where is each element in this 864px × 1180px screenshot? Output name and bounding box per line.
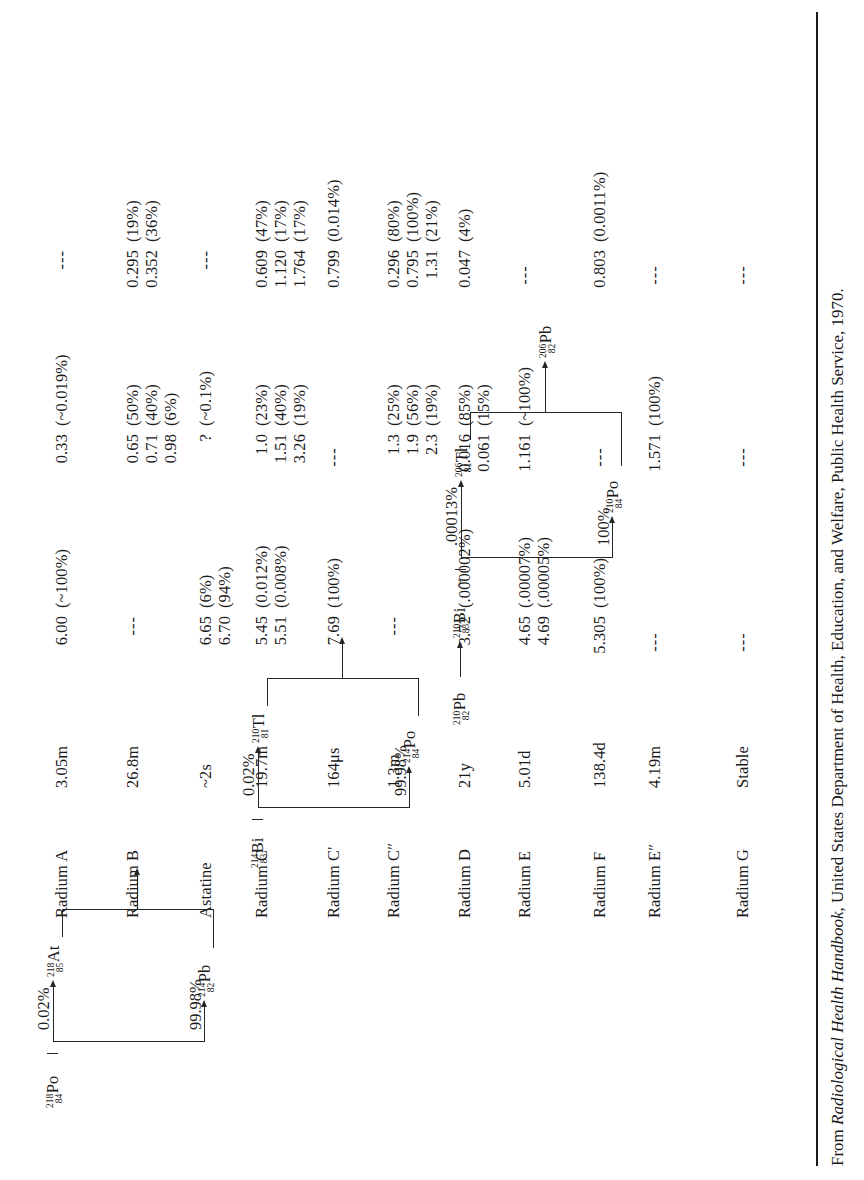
nuclide-indices: 206 81 — [454, 463, 472, 477]
element-symbol: Bi — [250, 838, 267, 854]
merge-line-lower — [213, 909, 214, 948]
atomic-number: 82 — [548, 344, 557, 358]
nuclide-indices: 210 82 — [452, 711, 470, 725]
element-symbol: Bi — [452, 608, 469, 624]
nuclide-po218: 218 84 Po — [45, 1076, 63, 1108]
branch-vertical-line — [258, 807, 410, 808]
branch-fraction-upper: .00013% — [444, 487, 461, 546]
nuclide-indices: 210 83 — [452, 624, 470, 638]
nuclide-pb214: 214 82 Pb — [197, 965, 215, 997]
caption-suffix: , United States Department of Health, Ed… — [828, 288, 847, 911]
nuclide-indices: 214 82 — [197, 983, 215, 997]
branch-fraction-lower: 100% — [596, 508, 613, 547]
element-symbol: Po — [45, 1076, 62, 1093]
atomic-number: 82 — [462, 711, 471, 725]
caption-source-title: Radiological Health Handbook — [828, 911, 847, 1124]
nuclide-pb210: 210 82 Pb — [452, 693, 470, 725]
outflow-arrow-head-icon — [542, 361, 548, 368]
atomic-number: 84 — [615, 499, 624, 513]
outflow-line — [137, 874, 138, 910]
element-symbol: Pb — [452, 693, 469, 710]
branch-arrow-line-upper — [461, 486, 462, 558]
branch-arrow-line-upper — [258, 752, 259, 808]
branch-arrow-line-lower — [204, 1006, 205, 1042]
approx-symbol: ~ — [451, 579, 468, 588]
nuclide-bi210: 210 83 Bi — [452, 608, 470, 638]
element-symbol: Tl — [454, 448, 471, 463]
outflow-arrow-head-icon — [134, 868, 140, 875]
nuclide-po210: 210 84 Po — [605, 481, 623, 513]
branch-arrow-line-lower — [409, 772, 410, 808]
element-symbol: Po — [605, 481, 622, 498]
atomic-number: 82 — [207, 983, 216, 997]
branch-fraction-upper: 0.02% — [36, 987, 53, 1030]
branch-fraction-upper: 0.02% — [241, 753, 258, 796]
branch-tick — [47, 1053, 58, 1054]
atomic-number: 84 — [55, 1094, 64, 1108]
nuclide-indices: 214 83 — [250, 854, 268, 868]
merge-line-upper — [62, 909, 63, 937]
merge-line-lower — [621, 412, 622, 466]
element-symbol: Po — [402, 731, 419, 748]
atomic-number: 85 — [56, 963, 65, 977]
atomic-number: 81 — [464, 463, 473, 477]
element-symbol: At — [46, 946, 63, 963]
merge-line-upper — [470, 412, 471, 440]
scanned-page: Radium A 3.05m 6.00 (~100%) 0.33 (~0.019… — [0, 0, 864, 1180]
element-symbol: Pb — [538, 326, 555, 343]
branch-vertical-line — [53, 1041, 205, 1042]
merge-line-lower — [418, 678, 419, 716]
arrow-head-lower-icon — [609, 516, 615, 523]
branch-vertical-line — [461, 557, 613, 558]
arrow-head-lower-icon — [201, 1000, 207, 1007]
atomic-number: 84 — [412, 749, 421, 763]
arrow-head-upper-icon — [458, 480, 464, 487]
arrow-head-lower-icon — [406, 766, 412, 773]
branch-tick — [252, 819, 263, 820]
nuclide-indices: 214 84 — [402, 749, 420, 763]
outflow-line — [545, 367, 546, 413]
atomic-number: 81 — [261, 729, 270, 743]
nuclide-indices: 218 84 — [45, 1094, 63, 1108]
rotated-page-wrapper: Radium A 3.05m 6.00 (~100%) 0.33 (~0.019… — [0, 0, 864, 1180]
nuclide-at218: 218 85 At — [46, 946, 64, 977]
nuclide-pb206: 206 82 Pb — [538, 326, 556, 358]
decay-arrow-line — [460, 647, 461, 677]
footer-divider — [816, 12, 818, 1166]
branch-tick — [455, 569, 466, 570]
nuclide-indices: 218 85 — [46, 963, 64, 977]
branch-arrow-line-upper — [53, 986, 54, 1042]
nuclide-tl210: 210 81 Tl — [251, 714, 269, 743]
outflow-line — [342, 643, 343, 679]
decay-arrow-head-icon — [457, 641, 463, 648]
atomic-number: 83 — [462, 624, 471, 638]
outflow-arrow-head-icon — [339, 637, 345, 644]
arrow-head-upper-icon — [255, 746, 261, 753]
nuclide-indices: 210 81 — [251, 729, 269, 743]
element-symbol: Pb — [197, 965, 214, 982]
nuclide-indices: 206 82 — [538, 344, 556, 358]
nuclide-tl206: 206 81 Tl — [454, 448, 472, 477]
nuclide-po214: 214 84 Po — [402, 731, 420, 763]
atomic-number: 83 — [260, 854, 269, 868]
nuclide-bi214: 214 83 Bi — [250, 838, 268, 868]
decay-chain-diagrams: 218 84 Po 0.02% 99.98% 218 85 At — [0, 0, 805, 1180]
nuclide-indices: 210 84 — [605, 499, 623, 513]
figure-caption: From Radiological Health Handbook, Unite… — [828, 288, 848, 1166]
arrow-head-upper-icon — [50, 980, 56, 987]
branch-arrow-line-lower — [612, 522, 613, 558]
caption-prefix: From — [828, 1125, 847, 1166]
merge-line-upper — [267, 678, 268, 706]
element-symbol: Tl — [251, 714, 268, 729]
